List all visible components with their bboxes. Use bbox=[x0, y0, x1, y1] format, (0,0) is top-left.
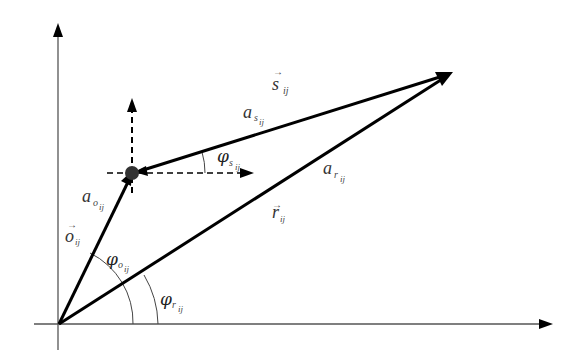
svg-text:ij: ij bbox=[283, 85, 289, 96]
svg-text:a: a bbox=[82, 186, 91, 206]
local-y-arrow-icon bbox=[127, 98, 137, 112]
svg-text:ij: ij bbox=[75, 237, 81, 247]
svg-text:r: r bbox=[334, 169, 338, 180]
svg-text:s: s bbox=[254, 112, 258, 123]
label-a-o: a o ij bbox=[82, 186, 105, 212]
svg-text:r: r bbox=[172, 299, 176, 310]
y-axis-arrow-icon bbox=[53, 23, 63, 37]
svg-text:o: o bbox=[65, 226, 74, 246]
svg-text:r: r bbox=[272, 202, 280, 222]
x-axis-arrow-icon bbox=[539, 319, 553, 329]
svg-text:a: a bbox=[323, 158, 332, 178]
svg-text:φ: φ bbox=[217, 146, 229, 166]
label-phi-o: φ o ij bbox=[106, 249, 130, 274]
svg-text:o: o bbox=[118, 259, 123, 270]
vector-diagram: → s ij a s ij φ s ij a r ij → r ij a o i… bbox=[0, 0, 574, 362]
svg-text:φ: φ bbox=[106, 249, 118, 269]
svg-text:ij: ij bbox=[235, 162, 241, 172]
y-axis bbox=[53, 23, 63, 350]
label-phi-s: φ s ij bbox=[217, 146, 241, 172]
svg-text:ij: ij bbox=[178, 304, 184, 314]
node-point bbox=[125, 166, 139, 180]
svg-text:ij: ij bbox=[124, 264, 130, 274]
svg-text:o: o bbox=[93, 197, 98, 208]
label-r-vector: → r ij bbox=[272, 199, 286, 224]
local-x-arrow-icon bbox=[240, 168, 254, 178]
label-o-vector: → o ij bbox=[65, 219, 81, 247]
svg-text:s: s bbox=[229, 157, 233, 168]
svg-text:s: s bbox=[272, 74, 279, 94]
angle-arcs bbox=[90, 152, 205, 324]
label-phi-r: φ r ij bbox=[160, 289, 184, 314]
svg-text:ij: ij bbox=[280, 214, 286, 224]
vector-r bbox=[59, 76, 447, 324]
label-a-r: a r ij bbox=[323, 158, 346, 184]
label-s-vector: → s ij bbox=[272, 66, 289, 96]
label-a-s: a s ij bbox=[243, 102, 265, 127]
svg-text:ij: ij bbox=[99, 202, 105, 212]
x-axis bbox=[34, 319, 553, 329]
svg-text:a: a bbox=[243, 102, 252, 122]
svg-text:ij: ij bbox=[259, 117, 265, 127]
svg-text:ij: ij bbox=[340, 174, 346, 184]
svg-text:φ: φ bbox=[160, 289, 172, 309]
